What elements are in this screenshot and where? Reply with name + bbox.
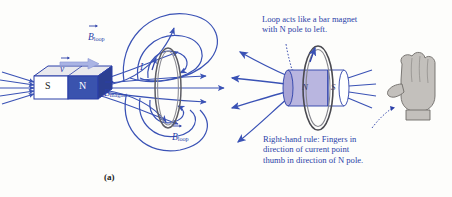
b-loop-top-symbol: B — [88, 32, 94, 42]
vector-arrow-overbar-v — [61, 56, 70, 60]
equivalent-magnet-south-label: S — [331, 82, 336, 92]
panel-a-magnet-approaching-loop: S N v B loop — [0, 0, 226, 197]
field-lines-south-end-right — [348, 70, 376, 108]
b-magnet-symbol: B — [104, 88, 110, 98]
b-magnet-label: B magnet — [104, 82, 127, 100]
field-lines-b-loop-lower — [125, 96, 207, 151]
b-loop-top-label: B loop — [88, 26, 104, 44]
equivalent-magnet-north-label: N — [302, 82, 308, 92]
magnet-south-pole-label: S — [45, 80, 51, 91]
b-loop-top-subscript: loop — [94, 35, 105, 42]
current-symbol-a: I — [140, 62, 143, 72]
callout-pointer-top — [286, 44, 292, 70]
annotation-loop-acts-like-bar-magnet: Loop acts like a bar magnet with N pole … — [262, 14, 357, 35]
magnet-north-pole-label: N — [79, 80, 86, 91]
field-lines-south-pole — [0, 72, 34, 104]
vector-arrow-overbar-bmagnet — [105, 80, 114, 84]
vector-arrow-overbar-bloop-bottom — [173, 124, 182, 128]
equivalent-bar-magnet — [283, 70, 349, 106]
caption-a: (a) — [104, 172, 115, 182]
velocity-symbol: v — [60, 64, 64, 74]
callout-arrowhead-bottom — [390, 106, 395, 111]
callout-pointer-bottom — [372, 109, 391, 128]
b-loop-bottom-label: B loop — [172, 126, 188, 144]
annotation-right-hand-rule: Right-hand rule: Fingers in direction of… — [263, 134, 363, 165]
b-magnet-subscript: magnet — [110, 91, 128, 98]
b-loop-bottom-symbol: B — [172, 132, 178, 142]
right-hand-illustration — [387, 52, 435, 120]
b-loop-bottom-subscript: loop — [178, 135, 189, 142]
physics-figure-magnet-loop: S N v B loop — [0, 0, 452, 197]
vector-arrow-overbar-bloop-top — [89, 24, 98, 28]
current-label-panel-a: I — [140, 56, 143, 74]
field-lines-north-pole-left — [232, 52, 288, 142]
velocity-vector-label: v — [60, 58, 64, 76]
